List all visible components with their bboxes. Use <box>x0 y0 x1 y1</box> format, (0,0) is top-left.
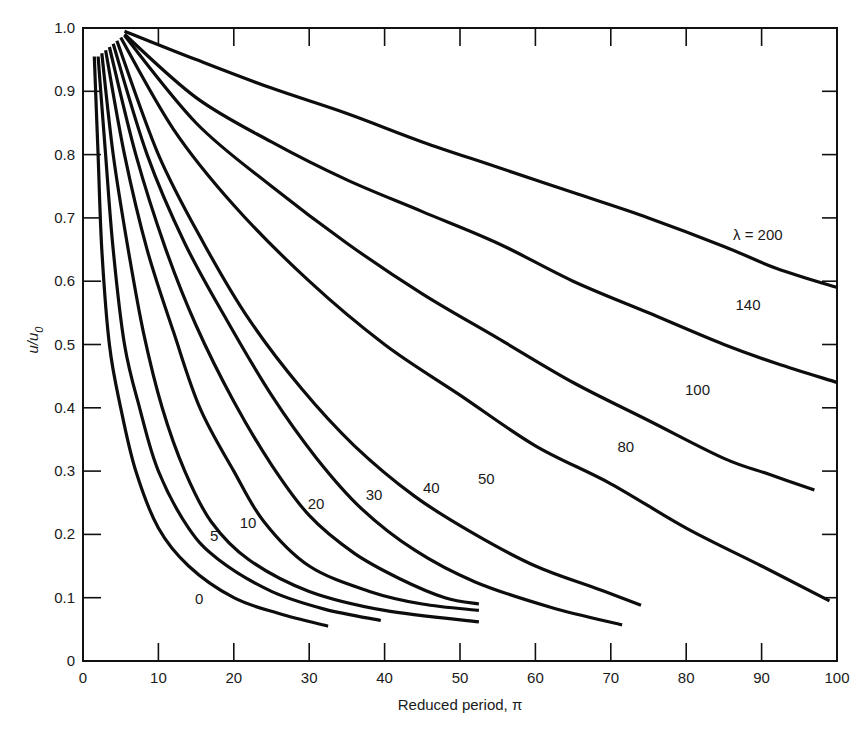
curve-label: 140 <box>736 296 761 313</box>
curve-line <box>109 47 479 604</box>
x-tick-label: 40 <box>376 669 393 686</box>
y-tick-label: 0.2 <box>54 525 75 542</box>
y-tick-label: 0.5 <box>54 336 75 353</box>
curve-label: 5 <box>210 527 218 544</box>
curve-line <box>106 50 479 610</box>
curve-label: 100 <box>685 381 710 398</box>
y-tick-label: 0.4 <box>54 399 75 416</box>
curve-label: 50 <box>478 470 495 487</box>
x-tick-label: 50 <box>452 669 469 686</box>
curve-line <box>125 36 815 491</box>
y-axis-title: u/u0 <box>24 326 45 354</box>
curve-label: 80 <box>618 438 635 455</box>
x-tick-label: 100 <box>824 669 849 686</box>
line-chart: 0102030405060708090100 00.10.20.30.40.50… <box>0 0 867 731</box>
x-tick-label: 0 <box>79 669 87 686</box>
x-tick-label: 30 <box>301 669 318 686</box>
y-tick-label: 0.9 <box>54 82 75 99</box>
y-tick-label: 0.1 <box>54 589 75 606</box>
curve-label: 10 <box>240 514 257 531</box>
curve-line <box>125 31 838 287</box>
y-axis-title-text: u/u0 <box>24 326 45 354</box>
x-tick-label: 70 <box>602 669 619 686</box>
curves <box>94 31 837 626</box>
y-axis-title-u: u/u <box>24 332 41 354</box>
curve-label: 40 <box>423 479 440 496</box>
curve-label: 30 <box>366 486 383 503</box>
chart-container: 0102030405060708090100 00.10.20.30.40.50… <box>0 0 867 731</box>
y-tick-label: 0.3 <box>54 462 75 479</box>
x-tick-label: 60 <box>527 669 544 686</box>
curve-label: 20 <box>308 495 325 512</box>
curve-line <box>113 44 622 625</box>
y-tick-label: 0 <box>67 652 75 669</box>
x-tick-label: 80 <box>678 669 695 686</box>
x-tick-label: 10 <box>150 669 167 686</box>
curve-label: 0 <box>195 590 203 607</box>
x-axis-title: Reduced period, π <box>398 696 523 713</box>
curve-line <box>102 53 479 622</box>
y-tick-label: 1.0 <box>54 19 75 36</box>
x-tick-label: 20 <box>225 669 242 686</box>
y-tick-label: 0.6 <box>54 272 75 289</box>
x-axis: 0102030405060708090100 <box>79 28 850 686</box>
curve-line <box>98 57 381 621</box>
y-tick-label: 0.7 <box>54 209 75 226</box>
y-axis-title-subscript: 0 <box>33 326 45 333</box>
y-tick-label: 0.8 <box>54 146 75 163</box>
x-tick-label: 90 <box>753 669 770 686</box>
curve-label: λ = 200 <box>733 226 783 243</box>
